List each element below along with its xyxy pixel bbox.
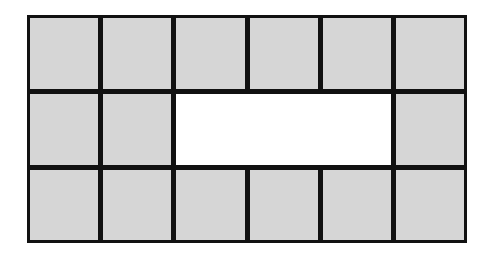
tile-cell [100,15,174,92]
tile-grid [27,15,467,243]
empty-hole-region [173,91,394,168]
tile-cell [393,91,467,168]
tile-cell [320,167,394,243]
tile-cell [100,167,174,243]
tile-cell [320,15,394,92]
tile-cell [27,167,101,243]
tile-cell [27,91,101,168]
tile-cell [173,15,248,92]
tile-cell [100,91,174,168]
tile-cell [27,15,101,92]
tile-cell [393,167,467,243]
tile-cell [247,167,321,243]
tile-cell [173,167,248,243]
tile-cell [393,15,467,92]
tile-cell [247,15,321,92]
